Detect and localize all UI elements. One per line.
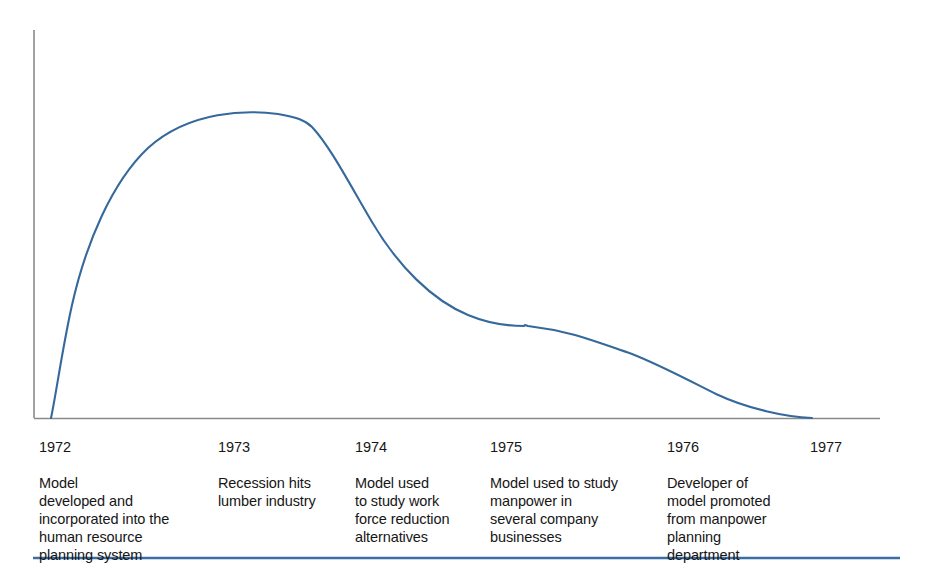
milestone-annotations: 1972 Model developed and incorporated in… — [0, 0, 930, 577]
milestone-1977: 1977 — [810, 420, 880, 492]
milestone-year-label: 1973 — [218, 438, 358, 456]
milestone-1976: 1976 Developer of model promoted from ma… — [667, 420, 807, 577]
milestone-text: Developer of model promoted from manpowe… — [667, 474, 807, 564]
milestone-year-label: 1975 — [490, 438, 665, 456]
milestone-1973: 1973 Recession hits lumber industry — [218, 420, 358, 528]
milestone-1975: 1975 Model used to study manpower in sev… — [490, 420, 665, 564]
milestone-1974: 1974 Model used to study work force redu… — [355, 420, 490, 564]
milestone-text: Recession hits lumber industry — [218, 474, 358, 510]
milestone-1972: 1972 Model developed and incorporated in… — [39, 420, 224, 577]
milestone-year-label: 1972 — [39, 438, 224, 456]
life-cycle-chart-figure: 1972 Model developed and incorporated in… — [0, 0, 930, 577]
milestone-text: Model developed and incorporated into th… — [39, 474, 224, 564]
milestone-year-label: 1976 — [667, 438, 807, 456]
milestone-text: Model used to study work force reduction… — [355, 474, 490, 546]
milestone-year-label: 1977 — [810, 438, 880, 456]
milestone-year-label: 1974 — [355, 438, 490, 456]
milestone-text: Model used to study manpower in several … — [490, 474, 665, 546]
